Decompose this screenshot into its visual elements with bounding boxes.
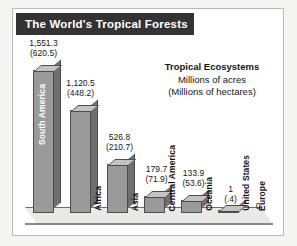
chart-page: The World's Tropical Forests Tropical Ec…	[0, 0, 297, 246]
bar-value-acres: 179.7	[140, 164, 173, 174]
bar-value-label: 1(.4)	[214, 184, 247, 204]
bar-front-face	[107, 164, 128, 213]
bar-africa: Africa1,120.5(448.2)	[70, 110, 91, 213]
bar-value-hectares: (71.9)	[140, 174, 173, 184]
bar-value-hectares: (.4)	[214, 194, 247, 204]
plot-area: South America1,551.3(620.5)Africa1,120.5…	[13, 40, 283, 235]
bar-value-label: 179.7(71.9)	[140, 164, 173, 184]
bar-united-states: United States1(.4)	[218, 210, 239, 213]
bar-south-america: South America1,551.3(620.5)	[33, 70, 54, 213]
bar-value-hectares: (53.6)	[177, 178, 210, 188]
bar-front-face	[70, 110, 91, 213]
bar-side-face	[54, 60, 61, 208]
chart-title-banner: The World's Tropical Forests	[16, 13, 194, 35]
bar-value-acres: 133.9	[177, 168, 210, 178]
bar-value-label: 0	[251, 201, 265, 211]
floor-front-edge	[25, 223, 273, 225]
bar-asia: Asia526.8(210.7)	[107, 164, 128, 213]
bar-value-hectares: (620.5)	[27, 48, 60, 58]
bar-value-hectares: (448.2)	[64, 88, 97, 98]
bar-value-label: 1,551.3(620.5)	[27, 38, 60, 58]
bar-value-acres: 526.8	[103, 132, 136, 142]
bar-category-label: Africa	[93, 186, 103, 211]
bar-front-face	[144, 196, 165, 213]
bar-category-label: Asia	[130, 193, 140, 211]
bar-oceania: Oceania133.9(53.6)	[181, 200, 202, 213]
bar-value-acres: 1,120.5	[64, 78, 97, 88]
bar-value-acres: 1,551.3	[27, 38, 60, 48]
bar-category-label: South America	[37, 84, 47, 145]
bar-value-label: 526.8(210.7)	[103, 132, 136, 152]
bar-value-label: 133.9(53.6)	[177, 168, 210, 188]
bar-value-acres: 1	[214, 184, 247, 194]
page-title: The World's Tropical Forests	[25, 18, 188, 30]
bar-value-hectares: (210.7)	[103, 142, 136, 152]
bar-value-acres: 0	[251, 201, 265, 211]
bar-value-label: 1,120.5(448.2)	[64, 78, 97, 98]
bar-central-america: Central America179.7(71.9)	[144, 196, 165, 213]
